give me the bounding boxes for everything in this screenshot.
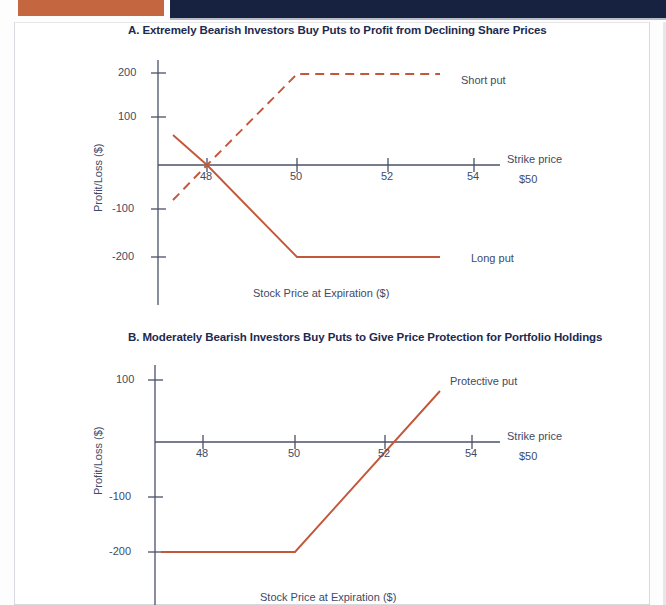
navy-header-bar xyxy=(170,0,666,18)
chart-b-xticklabel-50: 50 xyxy=(288,447,300,459)
chart-a-yticklabel-minus100: -100 xyxy=(112,202,134,214)
chart-b-strike-price-caption: Strike price xyxy=(507,430,562,442)
chart-panel-a: 48 50 52 54 200 100 -100 -200 Short put … xyxy=(0,50,666,310)
orange-header-bar xyxy=(18,0,164,16)
chart-panel-b: 48 50 52 54 100 -100 -200 Protective put… xyxy=(0,355,666,605)
chart-a-label-short-put: Short put xyxy=(461,74,506,86)
chart-b-xticklabel-52: 52 xyxy=(378,447,390,459)
chart-a-strike-price-caption: Strike price xyxy=(507,153,562,165)
chart-a-series-short-put xyxy=(173,74,440,200)
page-canvas: A. Extremely Bearish Investors Buy Puts … xyxy=(0,0,666,605)
chart-b-yticklabel-minus100: -100 xyxy=(109,490,131,502)
chart-a-yticklabel-100: 100 xyxy=(118,110,136,122)
chart-a-xticklabel-50: 50 xyxy=(290,170,302,182)
chart-b-xticklabel-48: 48 xyxy=(196,447,208,459)
chart-a-xticklabel-54: 54 xyxy=(467,170,479,182)
panel-b-title: B. Moderately Bearish Investors Buy Puts… xyxy=(128,331,602,343)
chart-b-xticklabel-54: 54 xyxy=(465,447,477,459)
chart-b-y-axis-caption: Profit/Loss ($) xyxy=(92,427,104,495)
chart-b-label-protective-put: Protective put xyxy=(450,375,517,387)
chart-b-x-axis-caption: Stock Price at Expiration ($) xyxy=(260,591,396,603)
chart-a-series-long-put xyxy=(173,135,440,257)
chart-b-yticklabel-minus200: -200 xyxy=(109,545,131,557)
chart-a-y-axis-caption: Profit/Loss ($) xyxy=(92,144,104,212)
chart-a-yticklabel-200: 200 xyxy=(118,66,136,78)
chart-a-xticklabel-52: 52 xyxy=(381,170,393,182)
chart-b-strike-price-value: $50 xyxy=(519,450,537,462)
chart-b-yticklabel-100: 100 xyxy=(116,373,134,385)
panel-a-title: A. Extremely Bearish Investors Buy Puts … xyxy=(128,24,547,36)
chart-a-label-long-put: Long put xyxy=(471,252,514,264)
chart-b-series-protective-put xyxy=(161,391,440,552)
navy-header-bar-shadow xyxy=(170,18,666,20)
chart-a-yticklabel-minus200: -200 xyxy=(112,250,134,262)
chart-a-strike-price-value: $50 xyxy=(519,173,537,185)
chart-a-x-axis-caption: Stock Price at Expiration ($) xyxy=(253,287,389,299)
chart-a-xticklabel-48: 48 xyxy=(200,170,212,182)
